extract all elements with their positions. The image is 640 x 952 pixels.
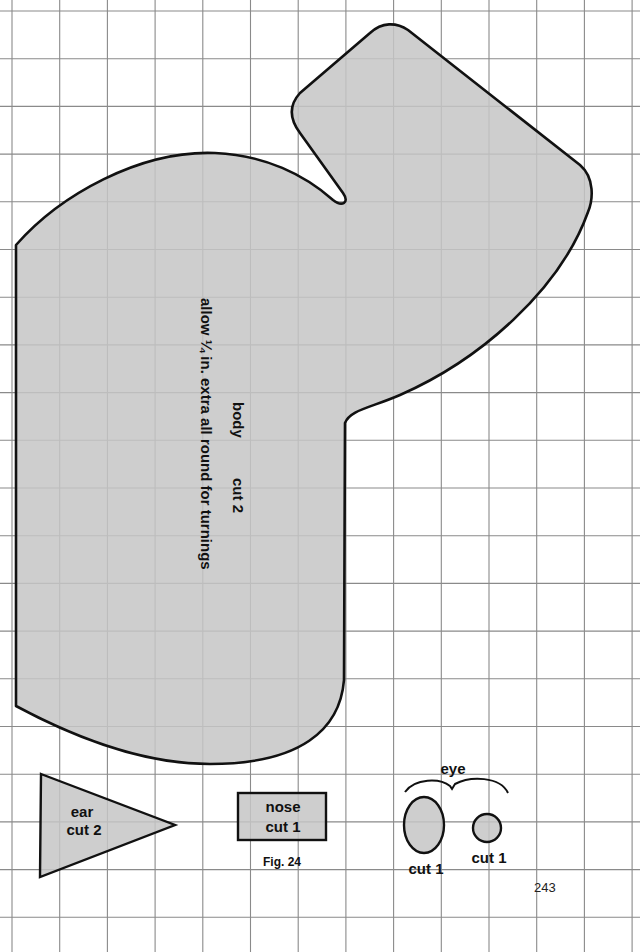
- eye-small-cut-label: cut 1: [471, 849, 506, 866]
- body-note-group: allow ¼ in. extra all round for turnings: [198, 298, 215, 570]
- body-pattern-piece: [16, 24, 592, 764]
- eye-large-cut-label: cut 1: [408, 860, 443, 877]
- pattern-page: body cut 2 allow ¼ in. extra all round f…: [0, 0, 640, 952]
- nose-cut-label: cut 1: [265, 818, 300, 835]
- ear-label: ear: [71, 803, 94, 820]
- eye-small-pattern-piece: [473, 814, 501, 842]
- eye-brace-icon: [405, 779, 508, 793]
- ear-cut-label: cut 2: [66, 821, 101, 838]
- nose-label: nose: [265, 798, 300, 815]
- pattern-sheet: body cut 2 allow ¼ in. extra all round f…: [0, 0, 640, 952]
- figure-caption: Fig. 24: [263, 855, 301, 869]
- eye-label: eye: [440, 760, 465, 777]
- body-label: body: [230, 402, 247, 438]
- body-cut-label: cut 2: [230, 478, 247, 513]
- turnings-note: allow ¼ in. extra all round for turnings: [198, 298, 215, 570]
- page-number: 243: [534, 880, 556, 895]
- eye-large-pattern-piece: [404, 797, 444, 853]
